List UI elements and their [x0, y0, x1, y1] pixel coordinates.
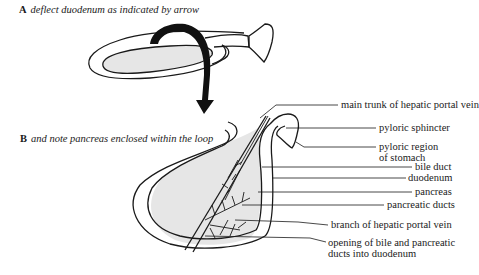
stomach-a: [249, 24, 273, 62]
label-pyloric-sphincter: pyloric sphincter: [379, 122, 450, 133]
label-duodenum: duodenum: [408, 172, 452, 183]
label-text: bile duct: [415, 161, 451, 172]
caption-b: Band note pancreas enclosed within the l…: [20, 133, 213, 144]
caption-a: Adeflect duodenum as indicated by arrow: [19, 4, 199, 15]
label-text: pancreatic ducts: [387, 199, 455, 210]
label-pancreatic-ducts: pancreatic ducts: [387, 199, 455, 210]
label-text: main trunk of hepatic portal vein: [341, 99, 479, 110]
caption-a-text: deflect duodenum as indicated by arrow: [31, 4, 199, 15]
caption-b-text: and note pancreas enclosed within the lo…: [31, 133, 213, 144]
label-text: branch of hepatic portal vein: [331, 219, 452, 230]
pancreas-a: [103, 45, 213, 73]
label-opening-ducts: opening of bile and pancreatic ducts int…: [328, 237, 455, 259]
label-pyloric-region: pyloric region of stomach: [379, 141, 438, 163]
label-text: pyloric sphincter: [379, 122, 450, 133]
label-text: opening of bile and pancreatic: [328, 237, 455, 248]
label-main-trunk-hepatic-portal-vein: main trunk of hepatic portal vein: [341, 99, 479, 110]
caption-a-letter: A: [19, 4, 27, 15]
label-text: pancreas: [415, 186, 452, 197]
label-text: duodenum: [408, 172, 452, 183]
label-branch-hepatic-portal-vein: branch of hepatic portal vein: [331, 219, 452, 230]
pancreas-b: [151, 128, 261, 245]
label-text: pyloric region: [379, 141, 438, 152]
label-text: ducts into duodenum: [328, 248, 416, 259]
diagram-a: [89, 24, 273, 79]
caption-b-letter: B: [20, 133, 27, 144]
label-bile-duct: bile duct: [415, 161, 451, 172]
label-pancreas: pancreas: [415, 186, 452, 197]
